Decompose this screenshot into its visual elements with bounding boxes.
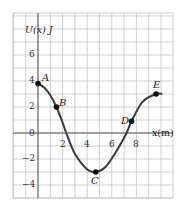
x-tick-8: 8 <box>133 139 139 149</box>
x-tick-4: 4 <box>84 139 90 149</box>
y-tick-6: 6 <box>29 49 35 59</box>
point-label-a: A <box>41 72 49 83</box>
y-axis-label: U(x) J <box>25 24 54 35</box>
point-label-c: C <box>91 175 99 186</box>
point-a-marker <box>35 81 41 87</box>
x-tick-6: 6 <box>109 139 115 149</box>
potential-energy-chart: U(x) J x(m) 2 4 6 8 6 4 2 0 −2 −4 A B C … <box>0 0 183 210</box>
point-d-marker <box>129 119 135 125</box>
point-c-marker <box>93 169 99 175</box>
x-axis-label: x(m) <box>152 127 174 138</box>
point-label-e: E <box>152 79 161 90</box>
y-tick-4: 4 <box>29 75 35 85</box>
grid <box>13 13 173 198</box>
y-tick-minus-4: −4 <box>22 179 36 189</box>
y-tick-2: 2 <box>29 101 35 111</box>
y-tick-minus-2: −2 <box>22 153 35 163</box>
marked-points <box>35 81 159 175</box>
point-e-marker <box>153 91 159 97</box>
point-label-d: D <box>120 115 129 126</box>
point-label-b: B <box>58 97 66 108</box>
chart-svg: U(x) J x(m) 2 4 6 8 6 4 2 0 −2 −4 A B C … <box>0 0 183 210</box>
x-tick-2: 2 <box>60 139 66 149</box>
y-tick-0: 0 <box>29 128 35 138</box>
